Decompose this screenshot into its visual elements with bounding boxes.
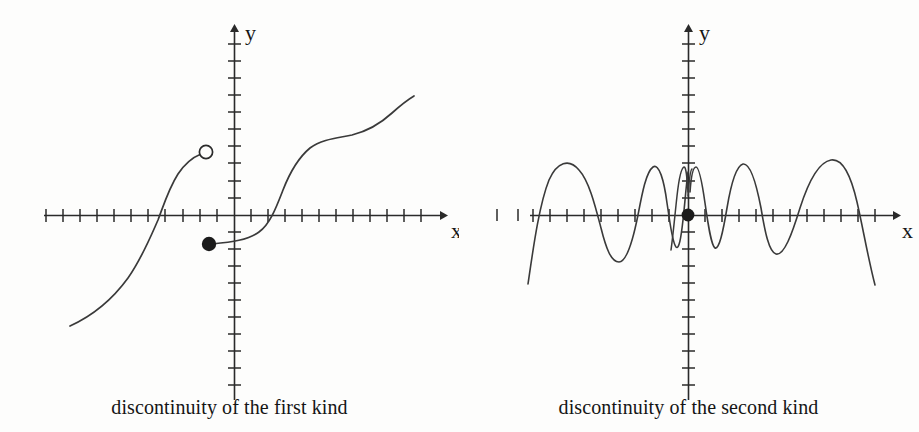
curve-left-branch	[70, 154, 201, 326]
x-axis-label-right: x	[902, 218, 913, 243]
detached-axis-ticks	[497, 209, 518, 221]
x-axis-right	[530, 209, 901, 222]
filled-dot-value-marker	[202, 237, 216, 251]
figure-page: x y discontinuity of the first kind	[0, 0, 919, 432]
curve-oscillation-inner-left	[671, 167, 688, 250]
open-circle-limit-marker	[199, 145, 212, 158]
panel-first-kind: x y discontinuity of the first kind	[0, 0, 459, 432]
panel-second-kind: x y discontinuity of the second kind	[459, 0, 918, 432]
y-axis-label-right: y	[699, 20, 710, 45]
caption-first-kind: discontinuity of the first kind	[0, 396, 459, 419]
curve-oscillation-left	[528, 163, 688, 284]
curve-right-branch	[212, 96, 414, 244]
discontinuity-second-kind-plot: x y	[459, 0, 919, 432]
y-axis-label-left: y	[245, 20, 256, 45]
x-axis-left	[44, 209, 448, 222]
curve-oscillation-right	[690, 160, 875, 285]
discontinuity-first-kind-plot: x y	[0, 0, 459, 432]
filled-dot-origin-marker	[682, 209, 695, 222]
y-axis-left	[228, 24, 241, 400]
caption-second-kind: discontinuity of the second kind	[459, 396, 918, 419]
x-axis-label-left: x	[451, 218, 459, 243]
